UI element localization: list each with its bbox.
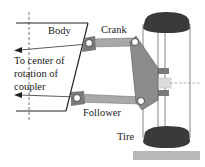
wheel-hub — [157, 68, 200, 96]
label-annotation-3: coupler — [14, 81, 46, 92]
pivot-upright-lower — [138, 98, 145, 105]
arrow-lower — [14, 92, 77, 98]
arrow-upper — [14, 44, 88, 53]
follower-link — [71, 91, 141, 106]
label-follower: Follower — [83, 107, 121, 118]
tire-top — [143, 12, 190, 33]
label-body: Body — [48, 25, 72, 36]
pivot-body-lower — [74, 95, 81, 102]
label-annotation-1: To center of — [14, 55, 65, 66]
label-tire: Tire — [117, 131, 134, 142]
label-crank: Crank — [101, 24, 127, 35]
pivot-upright-upper — [132, 39, 139, 46]
label-annotation-2: rotation of — [14, 68, 59, 79]
ground — [133, 151, 200, 160]
suspension-diagram: Body Crank To center of rotation of coup… — [0, 0, 205, 167]
pivot-body-upper — [86, 40, 93, 47]
tire-bottom — [143, 126, 190, 148]
